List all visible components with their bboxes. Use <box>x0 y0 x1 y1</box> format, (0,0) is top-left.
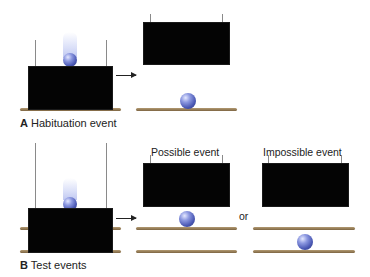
upper-shelf <box>136 227 237 230</box>
screen-post-left <box>35 40 36 67</box>
ball-on-upper-shelf <box>179 211 195 227</box>
or-label: or <box>239 210 248 222</box>
raised-screen <box>143 22 230 65</box>
ball <box>180 93 196 109</box>
panel-letter: B <box>20 259 28 271</box>
possible-event-label: Possible event <box>151 146 219 158</box>
panel-title: Habituation event <box>31 117 117 129</box>
ball <box>63 53 77 67</box>
arrow-icon <box>116 75 136 76</box>
screen-post-right <box>106 143 107 209</box>
panel-title: Test events <box>31 259 87 271</box>
raised-screen <box>143 163 230 207</box>
upper-shelf <box>253 227 355 230</box>
screen-post-right <box>106 40 107 67</box>
lower-shelf <box>253 250 355 253</box>
impossible-event-label: Impossible event <box>263 146 342 158</box>
occluding-screen <box>28 66 113 110</box>
screen-post-left <box>35 143 36 209</box>
panel-a-caption: A Habituation event <box>20 117 117 129</box>
panel-b-caption: B Test events <box>20 259 86 271</box>
lower-shelf <box>136 250 237 253</box>
raised-screen <box>262 163 349 207</box>
arrow-icon <box>116 218 136 219</box>
ball-on-lower-shelf <box>297 234 313 250</box>
panel-letter: A <box>20 117 28 129</box>
occluding-screen <box>28 208 113 253</box>
